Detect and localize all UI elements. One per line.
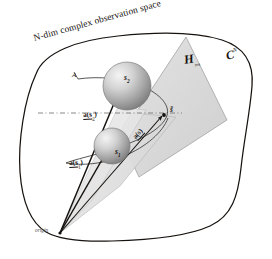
ambiguity-cone <box>60 107 176 233</box>
sphere-s2-label: s2 <box>124 74 130 84</box>
origin-label: origin <box>35 228 48 233</box>
vector-a-s2-label: a(s2) <box>83 103 98 122</box>
subspace-subscript: res <box>194 62 200 68</box>
subspace-symbol: H <box>183 51 195 66</box>
manifold-label-text: A <box>72 71 76 79</box>
point-origin <box>58 231 61 234</box>
vector-a-s1-label: a(s1) <box>69 151 84 170</box>
sphere-s1-subscript: 1 <box>118 152 121 158</box>
complex-space-exponent: N <box>232 46 237 53</box>
point-s-tilde <box>162 113 166 117</box>
sphere-s2-subscript: 2 <box>127 78 130 84</box>
vector-a-s1-label-close: ) <box>80 158 83 166</box>
vector-a-s1-label-text: a(s <box>69 159 78 168</box>
sphere-s1 <box>94 128 130 164</box>
vector-a-s2-label-text: a(s <box>83 111 92 120</box>
origin-label-text: origin <box>35 227 48 233</box>
manifold-label: A <box>72 72 76 79</box>
sphere-s2 <box>103 62 151 110</box>
subspace-label: Hres <box>182 49 200 70</box>
sphere-s1-label: s1 <box>115 148 121 158</box>
vector-a-s2-label-close: ) <box>94 110 97 118</box>
point-s-tilde-text: s̃ <box>170 105 173 114</box>
point-s-tilde-label: s̃ <box>170 106 173 113</box>
